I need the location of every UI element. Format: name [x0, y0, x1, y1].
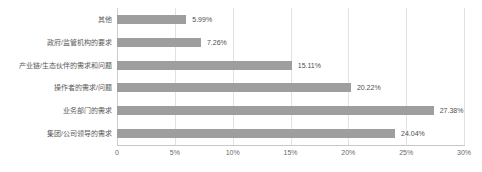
bar-row: 其他5.99%	[0, 8, 482, 31]
bar	[117, 61, 292, 70]
x-tick-label: 30%	[457, 149, 471, 156]
x-axis-line	[117, 145, 465, 146]
bar-track: 20.22%	[117, 77, 482, 100]
category-label: 操作者的需求/问题	[0, 84, 112, 91]
category-label: 其他	[0, 16, 112, 23]
x-tick-label: 20%	[341, 149, 355, 156]
category-label: 业务部门的需求	[0, 107, 112, 114]
bar-row: 业务部门的需求27.38%	[0, 99, 482, 122]
bar	[117, 106, 434, 115]
bar	[117, 83, 351, 92]
bar-row: 政府/监管机构的要求7.26%	[0, 31, 482, 54]
x-tick-label: 25%	[399, 149, 413, 156]
category-label: 政府/监管机构的要求	[0, 39, 112, 46]
bar-value-label: 15.11%	[298, 62, 321, 69]
bar-value-label: 20.22%	[357, 84, 381, 91]
bar	[117, 15, 186, 24]
bar	[117, 129, 395, 138]
x-tick-label: 0	[115, 149, 119, 156]
bar-value-label: 5.99%	[192, 16, 212, 23]
bar-track: 7.26%	[117, 31, 482, 54]
category-label: 集团/公司领导的需求	[0, 130, 112, 137]
bar-chart: 其他5.99%政府/监管机构的要求7.26%产业链/生态伙伴的需求和问题15.1…	[0, 0, 482, 172]
x-tick-label: 10%	[226, 149, 240, 156]
bar	[117, 38, 201, 47]
bar-track: 5.99%	[117, 8, 482, 31]
bar-row: 集团/公司领导的需求24.04%	[0, 122, 482, 145]
bar-value-label: 24.04%	[401, 130, 425, 137]
bar-track: 15.11%	[117, 54, 482, 77]
bar-value-label: 27.38%	[440, 107, 464, 114]
bar-row: 产业链/生态伙伴的需求和问题15.11%	[0, 54, 482, 77]
x-tick-label: 15%	[283, 149, 297, 156]
bar-value-label: 7.26%	[207, 39, 227, 46]
category-label: 产业链/生态伙伴的需求和问题	[0, 62, 112, 69]
bar-track: 27.38%	[117, 99, 482, 122]
x-tick-label: 5%	[170, 149, 180, 156]
bar-track: 24.04%	[117, 122, 482, 145]
bar-row: 操作者的需求/问题20.22%	[0, 77, 482, 100]
figure-caption	[0, 164, 482, 172]
